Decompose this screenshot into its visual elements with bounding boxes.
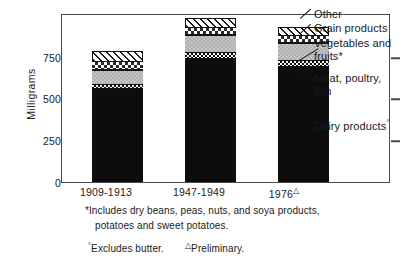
segment-other-1909-1913: [92, 51, 143, 61]
x-tick-text-1: 1909-1913: [80, 186, 132, 198]
x-tick-text-2: 1947-1949: [173, 186, 225, 198]
y-tick-mark-750-right: [391, 57, 400, 59]
segment-vegetables-fruits-1909-1913: [92, 70, 143, 84]
segment-meat-poultry-fish-1909-1913: [92, 84, 143, 89]
bar-1909-1913: [92, 51, 143, 182]
legend-label-vegetables-and-fruits-2: fruits*: [314, 50, 343, 62]
legend-item-meat-poultry-fish: Meat, poultry,: [314, 72, 381, 85]
bar-1947-1949: [185, 18, 236, 182]
legend-label-vegetables-and-fruits: Vegetables and: [314, 37, 391, 49]
preliminary-marker-icon: △: [293, 186, 299, 195]
segment-grain-products-1947-1949: [185, 27, 236, 35]
y-tick-label-250: 250: [29, 135, 61, 147]
legend-item-dairy-products: Dairy products°: [314, 117, 389, 132]
x-tick-label-1909-1913: 1909-1913: [62, 186, 150, 198]
y-tick-label-0: 0: [29, 177, 61, 189]
legend-item-vegetables-and-fruits: Vegetables and: [314, 37, 391, 50]
y-tick-mark-500-right: [391, 98, 400, 100]
legend-label-grain-products: Grain products: [314, 22, 388, 34]
excludes-butter-marker-icon: °: [386, 118, 389, 127]
x-tick-label-1947-1949: 1947-1949: [155, 186, 243, 198]
segment-dairy-products-1947-1949: [185, 59, 236, 182]
segment-vegetables-fruits-1947-1949: [185, 35, 236, 52]
legend-item-vegetables-and-fruits-line2: fruits*: [314, 50, 343, 63]
segment-other-1947-1949: [185, 18, 236, 27]
legend-label-meat-poultry-fish-2: fish: [314, 85, 332, 97]
segment-grain-products-1909-1913: [92, 61, 143, 70]
legend-item-meat-poultry-fish-line2: fish: [314, 85, 332, 98]
y-tick-label-750: 750: [29, 52, 61, 64]
footnote-line-3: °Excludes butter.: [88, 240, 164, 255]
legend-item-grain-products: Grain products: [314, 22, 388, 35]
y-axis-tick-labels: 750 500 250 0: [22, 0, 61, 270]
footnote-line-4: △Preliminary.: [185, 240, 244, 255]
footnote-line-2: potatoes and sweet potatoes.: [95, 220, 228, 232]
x-tick-label-1976: 1976△: [240, 186, 328, 200]
segment-meat-poultry-fish-1947-1949: [185, 52, 236, 59]
legend-label-meat-poultry-fish: Meat, poultry,: [314, 72, 381, 84]
segment-dairy-products-1909-1913: [92, 89, 143, 182]
footnote-line-1: *Includes dry beans, peas, nuts, and soy…: [85, 205, 320, 217]
legend-item-other: Other: [314, 8, 342, 21]
legend-label-dairy-products: Dairy products: [314, 120, 386, 132]
stacked-bar-chart: Milligrams 750 500 250 0: [0, 0, 411, 270]
footnote-text-3: Excludes butter.: [91, 243, 164, 254]
legend-label-other: Other: [314, 8, 342, 20]
footnote-text-4: Preliminary.: [191, 243, 244, 254]
y-tick-label-500: 500: [29, 93, 61, 105]
y-tick-mark-250-right: [391, 140, 400, 142]
x-tick-text-3: 1976: [269, 188, 293, 200]
